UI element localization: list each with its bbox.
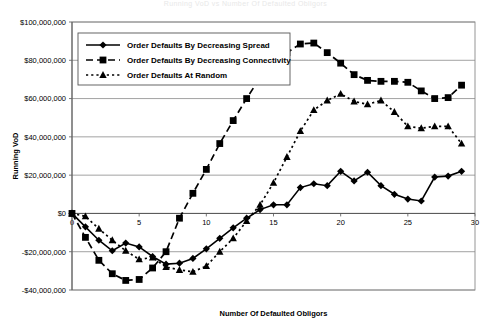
x-tick-label: 25	[404, 218, 412, 227]
x-tick-label: 5	[137, 218, 141, 227]
running-vod-line-chart: -$40,000,000-$20,000,000$0$20,000,000$40…	[0, 0, 491, 330]
y-tick-label: $20,000,000	[24, 171, 66, 180]
data-point-marker	[431, 95, 438, 102]
y-axis-tick-labels: -$40,000,000-$20,000,000$0$20,000,000$40…	[20, 18, 66, 295]
y-axis-title: Running VoD	[11, 132, 20, 180]
data-point-marker	[82, 234, 89, 241]
data-point-marker	[190, 190, 197, 197]
data-point-marker	[203, 166, 210, 173]
data-point-marker	[122, 277, 129, 284]
legend-label: Order Defaults By Decreasing Connectivit…	[127, 56, 291, 65]
y-tick-label: $100,000,000	[20, 18, 66, 27]
data-point-marker	[100, 57, 107, 64]
chart-root: Running VoD vs Number Of Defaulted Oblig…	[0, 0, 491, 330]
data-point-marker	[149, 265, 156, 272]
y-tick-label: $40,000,000	[24, 133, 66, 142]
data-point-marker	[378, 78, 385, 85]
data-point-marker	[163, 248, 170, 255]
legend-label: Order Defaults At Random	[127, 71, 227, 80]
data-point-marker	[136, 276, 143, 283]
y-tick-label: $80,000,000	[24, 56, 66, 65]
data-point-marker	[310, 40, 317, 47]
y-tick-label: -$20,000,000	[22, 248, 66, 257]
y-tick-label: $0	[58, 209, 66, 218]
x-tick-label: 20	[336, 218, 344, 227]
data-point-marker	[230, 117, 237, 124]
data-point-marker	[95, 257, 102, 264]
data-point-marker	[418, 88, 425, 95]
data-point-marker	[297, 41, 304, 48]
x-tick-label: 15	[269, 218, 277, 227]
y-tick-label: $60,000,000	[24, 94, 66, 103]
chart-legend: Order Defaults By Decreasing SpreadOrder…	[78, 33, 291, 85]
data-point-marker	[391, 78, 398, 85]
y-tick-label: -$40,000,000	[22, 286, 66, 295]
data-point-marker	[324, 49, 331, 56]
data-point-marker	[445, 94, 452, 101]
data-point-marker	[458, 82, 465, 89]
data-point-marker	[404, 79, 411, 86]
legend-label: Order Defaults By Decreasing Spread	[127, 41, 270, 50]
data-point-marker	[176, 215, 183, 222]
data-point-marker	[364, 77, 371, 84]
data-point-marker	[351, 71, 358, 78]
data-point-marker	[109, 270, 116, 277]
data-point-marker	[216, 140, 223, 147]
data-point-marker	[243, 95, 250, 102]
x-axis-title: Number Of Defaulted Obligors	[220, 309, 328, 318]
x-tick-label: 10	[202, 218, 210, 227]
data-point-marker	[337, 60, 344, 67]
